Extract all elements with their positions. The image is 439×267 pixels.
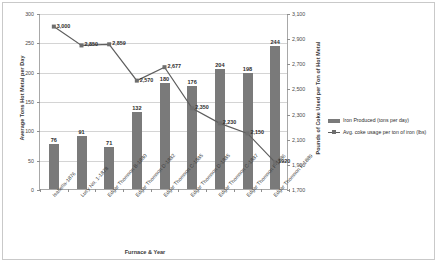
line-marker [163,65,167,69]
line-data-label: 2,859 [112,40,126,46]
y-axis-left-tick-label: 250 [8,40,34,46]
y-axis-left-tick-label: 50 [8,158,34,164]
line-data-label: 2,677 [168,63,182,69]
line-data-label: 2,350 [195,104,209,110]
legend-item-label: Iron Produced (tons per day) [343,118,409,124]
y-axis-left-tick-label: 200 [8,70,34,76]
x-tickmark [289,189,290,192]
line-data-label: 2,230 [223,119,237,125]
y-axis-right-tick-label: 2,900 [292,36,305,42]
line-marker [135,79,139,83]
y-axis-left-tick-label: 150 [8,99,34,105]
y-axis-right-ticks: 1,7001,9002,1002,3002,5002,7002,9003,100 [292,0,322,267]
legend-item-coke-usage: Avg. coke usage per ton of iron (lbs) [328,130,436,136]
legend-item-label: Avg. coke usage per ton of iron (lbs) [343,130,426,136]
line-marker [190,106,194,110]
y-axis-right-tick-label: 2,300 [292,112,305,118]
legend-item-iron-produced: Iron Produced (tons per day) [328,118,436,124]
x-axis-category-labels: Isabella-1876Lucy No. 1-1878Edgar Thomso… [39,192,288,250]
y-axis-left-tick-label: 0 [8,187,34,193]
line-data-label: 3,000 [57,23,71,29]
y-axis-right-tick-label: 2,700 [292,61,305,67]
line-marker [80,43,84,47]
line-marker [246,131,250,135]
line-marker [52,25,56,29]
y-axis-right-tick-label: 1,700 [292,187,305,193]
y-axis-right-tick-label: 3,100 [292,11,305,17]
chart-container: Average Tons Hot Metal per Day Pounds of… [0,0,439,267]
y-axis-left-tick-label: 300 [8,11,34,17]
line-marker [218,121,222,125]
line-data-label: 2,570 [140,77,154,83]
line-marker [107,42,111,46]
y-axis-left-tick-label: 100 [8,128,34,134]
bar-swatch-icon [328,119,340,123]
line-data-label: 2,850 [85,41,99,47]
y-axis-right-tick-label: 2,100 [292,137,305,143]
chart-legend: Iron Produced (tons per day) Avg. coke u… [328,118,436,141]
y-axis-right-tick-label: 2,500 [292,86,305,92]
line-data-label: 2,150 [251,129,265,135]
line-marker-swatch-icon [328,130,340,135]
y-axis-left-ticks: 050100150200250300 [8,0,34,267]
